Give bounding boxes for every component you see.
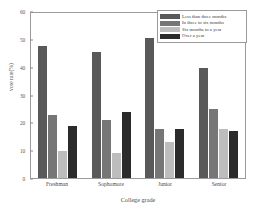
y-axis-title: vote rate(%) (8, 37, 14, 117)
bar (48, 115, 57, 178)
bar-chart: 0102030405060 vote rate(%) FreshmanSopho… (0, 0, 255, 217)
bar (165, 142, 174, 178)
bar (155, 129, 164, 179)
bar (112, 153, 121, 178)
legend-swatch (160, 14, 180, 19)
y-tick-label: 20 (20, 120, 25, 126)
bar (199, 68, 208, 178)
legend-label: Six months to a year (182, 27, 221, 33)
legend-item[interactable]: In three to six months (160, 20, 244, 26)
legend-item[interactable]: Less than three months (160, 14, 244, 20)
legend: Less than three monthsIn three to six mo… (157, 10, 247, 43)
legend-label: Less than three months (182, 14, 226, 20)
bar (175, 129, 184, 179)
bar (145, 38, 154, 178)
y-tick-mark (30, 12, 33, 13)
bar (219, 129, 228, 179)
x-tick-label: Junior (138, 181, 192, 193)
y-tick-mark (30, 39, 33, 40)
bar (58, 151, 67, 179)
y-tick-label: 40 (20, 65, 25, 71)
bar (68, 126, 77, 178)
legend-item[interactable]: Six months to a year (160, 27, 244, 33)
y-tick-label: 30 (20, 93, 25, 99)
y-axis: 0102030405060 (0, 12, 28, 179)
bar (122, 112, 131, 178)
bar-group (85, 13, 139, 178)
legend-label: Over a year (182, 33, 204, 39)
legend-label: In three to six months (182, 20, 224, 26)
legend-swatch (160, 21, 180, 26)
legend-item[interactable]: Over a year (160, 33, 244, 39)
bar (102, 120, 111, 178)
y-tick-label: 60 (20, 9, 25, 15)
y-tick-mark (30, 151, 33, 152)
bar (38, 46, 47, 178)
y-tick-mark (30, 67, 33, 68)
bar (209, 109, 218, 178)
y-tick-label: 50 (20, 37, 25, 43)
x-tick-label: Sophomore (84, 181, 138, 193)
y-tick-label: 0 (23, 176, 26, 182)
y-tick-mark (30, 123, 33, 124)
bar (92, 52, 101, 179)
legend-swatch (160, 34, 180, 39)
legend-swatch (160, 27, 180, 32)
y-tick-label: 10 (20, 148, 25, 154)
bar-group (31, 13, 85, 178)
y-tick-mark (30, 179, 33, 180)
bar (229, 131, 238, 178)
y-tick-mark (30, 95, 33, 96)
x-axis: FreshmanSophomoreJuniorSenior (30, 181, 246, 193)
x-axis-title: College grade (30, 196, 246, 203)
x-tick-label: Freshman (30, 181, 84, 193)
x-tick-label: Senior (192, 181, 246, 193)
